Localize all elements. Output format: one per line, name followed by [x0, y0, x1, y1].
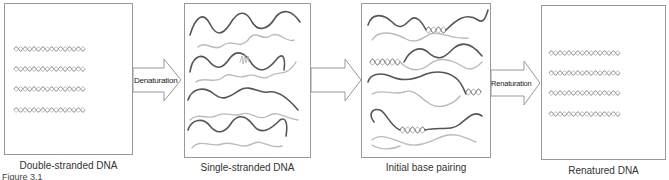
label-renaturation: Renaturation	[491, 79, 532, 88]
renatured-helix-group	[549, 51, 620, 116]
label-denaturation: Denaturation	[134, 76, 177, 85]
diagram-graphics	[0, 0, 669, 180]
arrow-middle	[311, 59, 361, 101]
figure-label: Figure 3.1	[2, 172, 43, 180]
double-helix-group	[14, 47, 85, 112]
